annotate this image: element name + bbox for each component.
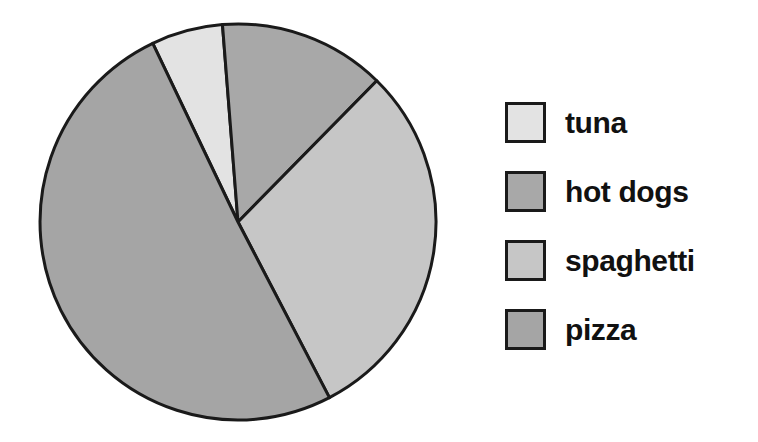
legend-item-tuna[interactable]: tuna bbox=[505, 88, 750, 157]
legend-label-pizza: pizza bbox=[565, 315, 636, 345]
legend-item-pizza[interactable]: pizza bbox=[505, 295, 750, 364]
legend-label-spaghetti: spaghetti bbox=[565, 246, 695, 276]
pie-chart-plot-area bbox=[24, 8, 464, 438]
legend-swatch-hot-dogs bbox=[505, 171, 546, 212]
legend-swatch-pizza bbox=[505, 309, 546, 350]
legend-swatch-tuna bbox=[505, 102, 546, 143]
legend-item-hot-dogs[interactable]: hot dogs bbox=[505, 157, 750, 226]
legend-label-tuna: tuna bbox=[565, 108, 627, 138]
chart-legend: tuna hot dogs spaghetti pizza bbox=[505, 88, 750, 364]
legend-swatch-spaghetti bbox=[505, 240, 546, 281]
pie-chart-svg bbox=[24, 8, 464, 438]
legend-item-spaghetti[interactable]: spaghetti bbox=[505, 226, 750, 295]
pie-chart-figure: tuna hot dogs spaghetti pizza bbox=[0, 0, 758, 442]
legend-label-hot-dogs: hot dogs bbox=[565, 177, 688, 207]
pie-slice-group bbox=[40, 24, 436, 420]
